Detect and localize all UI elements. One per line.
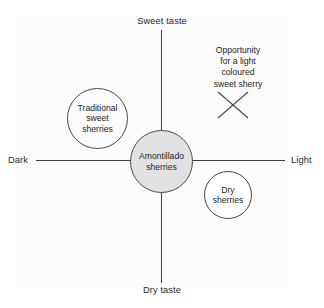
bubble-amontillado-sherries: Amontillado sherries — [130, 130, 193, 193]
bubble-dry-line-2: sherries — [211, 195, 246, 205]
axis-label-sweet-taste: Sweet taste — [0, 16, 324, 26]
axis-label-dry-taste: Dry taste — [0, 285, 324, 295]
bubble-dry-sherries: Dry sherries — [204, 171, 252, 219]
x-mark-icon — [217, 91, 249, 119]
annotation-line-4: sweet sherry — [214, 79, 263, 89]
annotation-line-2: for a light — [220, 56, 255, 66]
bubble-traditional-sweet-sherries: Traditional sweet sherries — [67, 88, 128, 149]
axis-label-dark: Dark — [8, 155, 28, 165]
annotation-opportunity: Opportunity for a light coloured sweet s… — [192, 45, 284, 90]
bubble-center-line-2: sherries — [137, 162, 186, 172]
perceptual-map-chart: Sweet taste Dry taste Dark Light Traditi… — [0, 0, 324, 308]
annotation-line-3: coloured — [222, 67, 255, 77]
axis-label-light: Light — [291, 155, 312, 165]
bubble-dry-line-1: Dry — [211, 185, 246, 195]
bubble-traditional-line-1: Traditional — [76, 103, 120, 113]
bubble-traditional-line-3: sherries — [76, 124, 120, 134]
bubble-center-line-1: Amontillado — [137, 151, 186, 161]
bubble-traditional-line-2: sweet — [76, 113, 120, 123]
annotation-line-1: Opportunity — [216, 45, 260, 55]
